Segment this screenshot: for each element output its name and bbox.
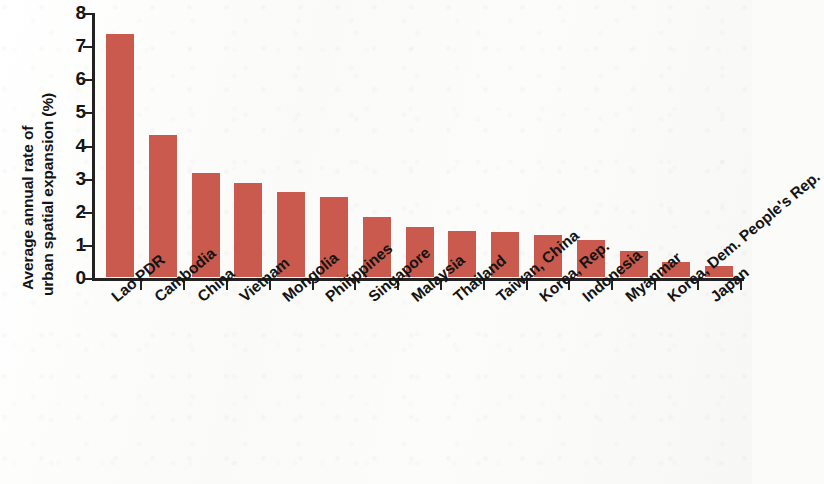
y-axis-tick-mark	[83, 179, 93, 181]
x-axis-tick-mark	[312, 279, 314, 290]
x-axis-tick-mark	[483, 279, 485, 290]
x-axis-tick-mark	[526, 279, 528, 290]
bar	[406, 227, 434, 277]
bar	[577, 240, 605, 277]
bar	[277, 192, 305, 277]
y-axis-title-line-1: Average annual rate of	[19, 126, 37, 290]
y-axis-title-line-2: urban spatial expansion (%)	[39, 93, 57, 296]
x-axis-tick-mark	[140, 279, 142, 290]
y-axis-tick-mark	[83, 212, 93, 214]
x-axis-tick-mark	[740, 279, 742, 290]
x-axis-tick-mark	[354, 279, 356, 290]
bar	[192, 173, 220, 277]
y-axis-tick-mark	[83, 46, 93, 48]
bar	[149, 135, 177, 277]
bar	[705, 266, 733, 277]
x-axis-line	[92, 278, 744, 281]
x-axis-tick-mark	[697, 279, 699, 290]
bar	[491, 232, 519, 277]
bar	[234, 183, 262, 277]
y-axis-tick-mark	[83, 245, 93, 247]
bar	[534, 235, 562, 277]
x-axis-tick-mark	[226, 279, 228, 290]
bar	[448, 231, 476, 277]
y-axis-tick-mark	[83, 146, 93, 148]
bar	[363, 217, 391, 277]
y-axis-title: Average annual rate of urban spatial exp…	[0, 0, 46, 300]
y-axis-tick-mark	[83, 278, 93, 280]
x-axis-tick-mark	[611, 279, 613, 290]
x-axis-tick-mark	[654, 279, 656, 290]
x-axis-tick-mark	[269, 279, 271, 290]
bar	[320, 197, 348, 277]
x-axis-tick-mark	[440, 279, 442, 290]
bar	[106, 34, 134, 277]
y-axis-tick-mark	[83, 13, 93, 15]
x-axis-tick-mark	[568, 279, 570, 290]
plot-area	[92, 13, 744, 280]
y-axis-tick-mark	[83, 112, 93, 114]
bar	[662, 262, 690, 277]
bar	[620, 251, 648, 278]
x-axis-tick-mark	[397, 279, 399, 290]
x-axis-tick-mark	[183, 279, 185, 290]
y-axis-tick-mark	[83, 79, 93, 81]
